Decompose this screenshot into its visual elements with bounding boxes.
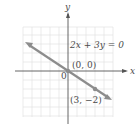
point-label-origin: (0, 0) bbox=[72, 60, 96, 70]
x-axis-label: x bbox=[130, 66, 135, 76]
point-label-3-neg2: (3, −2) bbox=[70, 95, 102, 105]
origin-label: 0 bbox=[61, 71, 67, 81]
equation-label: 2x + 3y = 0 bbox=[69, 40, 124, 50]
point-3-neg2 bbox=[93, 87, 97, 91]
graph-canvas: 2x + 3y = 0 (0, 0) (3, −2) 0 x y bbox=[0, 0, 139, 129]
x-axis-arrow-icon bbox=[122, 69, 128, 73]
y-axis-arrow-icon bbox=[66, 12, 70, 18]
y-axis-label: y bbox=[64, 2, 71, 12]
